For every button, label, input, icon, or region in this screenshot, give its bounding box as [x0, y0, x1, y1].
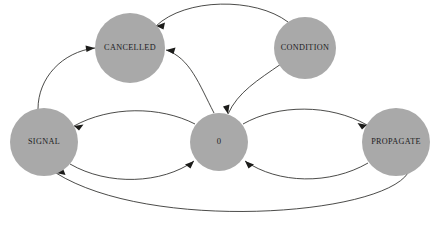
- edge-propagate-to-zero[interactable]: [245, 161, 368, 179]
- edge-condition-to-cancelled[interactable]: [156, 4, 288, 29]
- arrowhead-icon: [86, 46, 96, 53]
- edge-path: [38, 48, 95, 109]
- edge-zero-to-cancelled[interactable]: [166, 48, 214, 114]
- edge-path: [245, 161, 368, 179]
- edge-signal-to-cancelled[interactable]: [38, 46, 95, 110]
- node-label-zero: 0: [217, 136, 222, 146]
- node-propagate[interactable]: PROPAGATE: [362, 108, 430, 176]
- edge-zero-to-signal[interactable]: [74, 111, 195, 131]
- edge-path: [70, 161, 194, 179]
- edge-zero-to-propagate[interactable]: [243, 109, 367, 129]
- node-condition[interactable]: CONDITION: [274, 17, 336, 79]
- edge-path: [74, 111, 195, 126]
- node-cancelled[interactable]: CANCELLED: [95, 13, 165, 83]
- edge-condition-to-zero[interactable]: [223, 64, 281, 114]
- edge-path: [56, 173, 408, 211]
- arrowhead-icon: [185, 161, 194, 169]
- edge-propagate-to-signal[interactable]: [56, 169, 408, 212]
- node-label-signal: SIGNAL: [28, 137, 60, 146]
- node-signal[interactable]: SIGNAL: [10, 108, 78, 176]
- edge-path: [156, 4, 288, 26]
- state-diagram-canvas: CANCELLED CONDITION SIGNAL 0 PROPAGATE: [0, 0, 433, 226]
- edge-path: [166, 50, 214, 113]
- arrowhead-icon: [245, 161, 254, 169]
- arrowhead-icon: [166, 48, 176, 55]
- edge-layer: [38, 4, 408, 211]
- edge-signal-to-zero[interactable]: [70, 161, 194, 179]
- node-layer: CANCELLED CONDITION SIGNAL 0 PROPAGATE: [10, 13, 430, 176]
- node-zero[interactable]: 0: [190, 113, 248, 171]
- node-label-cancelled: CANCELLED: [104, 43, 156, 52]
- edge-path: [243, 109, 367, 125]
- node-label-propagate: PROPAGATE: [371, 137, 421, 146]
- state-diagram-svg: CANCELLED CONDITION SIGNAL 0 PROPAGATE: [0, 0, 433, 226]
- edge-path: [228, 64, 281, 114]
- node-label-condition: CONDITION: [281, 43, 330, 52]
